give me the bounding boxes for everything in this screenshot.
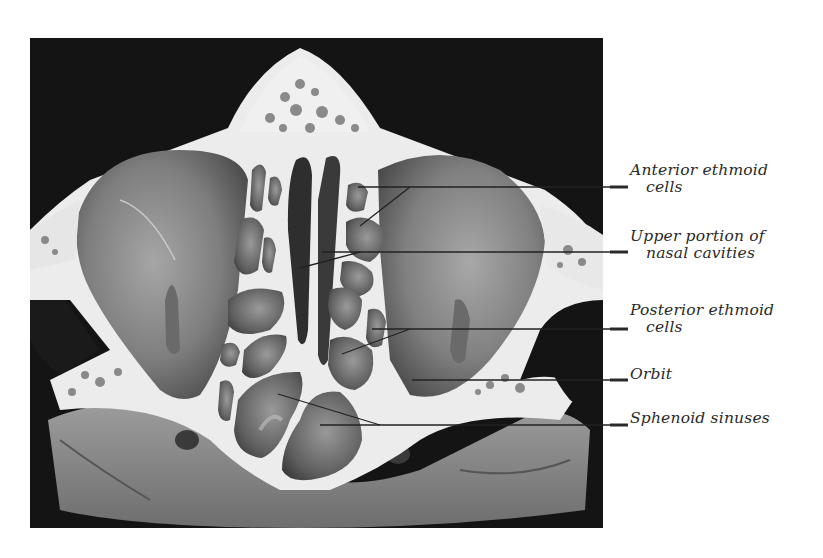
label-upper-nasal-line1: Upper portion of — [630, 227, 765, 245]
label-anterior-ethmoid-line2: cells — [630, 179, 768, 196]
label-sphenoid-line1: Sphenoid sinuses — [630, 409, 770, 427]
label-posterior-ethmoid-line1: Posterior ethmoid — [630, 301, 774, 319]
illustration-canvas — [0, 0, 823, 558]
label-posterior-ethmoid-cells: Posterior ethmoid cells — [630, 302, 774, 336]
label-anterior-ethmoid-cells: Anterior ethmoid cells — [630, 162, 768, 196]
label-anterior-ethmoid-line1: Anterior ethmoid — [630, 161, 768, 179]
label-upper-nasal-cavities: Upper portion of nasal cavities — [630, 228, 765, 262]
label-sphenoid-sinuses: Sphenoid sinuses — [630, 410, 770, 427]
label-posterior-ethmoid-line2: cells — [630, 319, 774, 336]
label-upper-nasal-line2: nasal cavities — [630, 245, 765, 262]
label-orbit-line1: Orbit — [630, 365, 672, 383]
label-orbit: Orbit — [630, 366, 672, 383]
